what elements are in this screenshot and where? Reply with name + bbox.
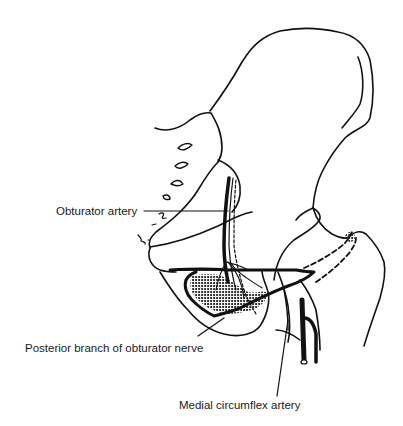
sacral-mark-1	[159, 213, 166, 218]
femoral-head-stipple	[345, 232, 355, 242]
foramen-1	[178, 144, 192, 150]
pubic-ramus-upper	[150, 212, 252, 247]
sacrum-lower-contour	[149, 162, 218, 248]
label-obturator-artery: Obturator artery	[56, 206, 137, 218]
sacrum-edge	[155, 113, 222, 162]
label-posterior-branch-obturator-nerve: Posterior branch of obturator nerve	[25, 343, 203, 355]
femoral-artery-end	[301, 360, 307, 364]
ilium-outline	[210, 28, 373, 208]
foramen-2	[175, 162, 188, 168]
femoral-artery	[302, 300, 304, 360]
label-medial-circumflex-artery: Medial circumflex artery	[179, 400, 300, 412]
obturator-artery-bundle	[224, 178, 229, 282]
iliac-crest-inner	[342, 57, 363, 128]
foramen-3	[171, 180, 183, 185]
sacral-mark-3	[138, 235, 149, 244]
foramen-4	[163, 195, 170, 200]
anatomy-diagram: Obturator artery Posterior branch of obt…	[0, 0, 403, 426]
sacral-mark-2	[152, 224, 156, 225]
